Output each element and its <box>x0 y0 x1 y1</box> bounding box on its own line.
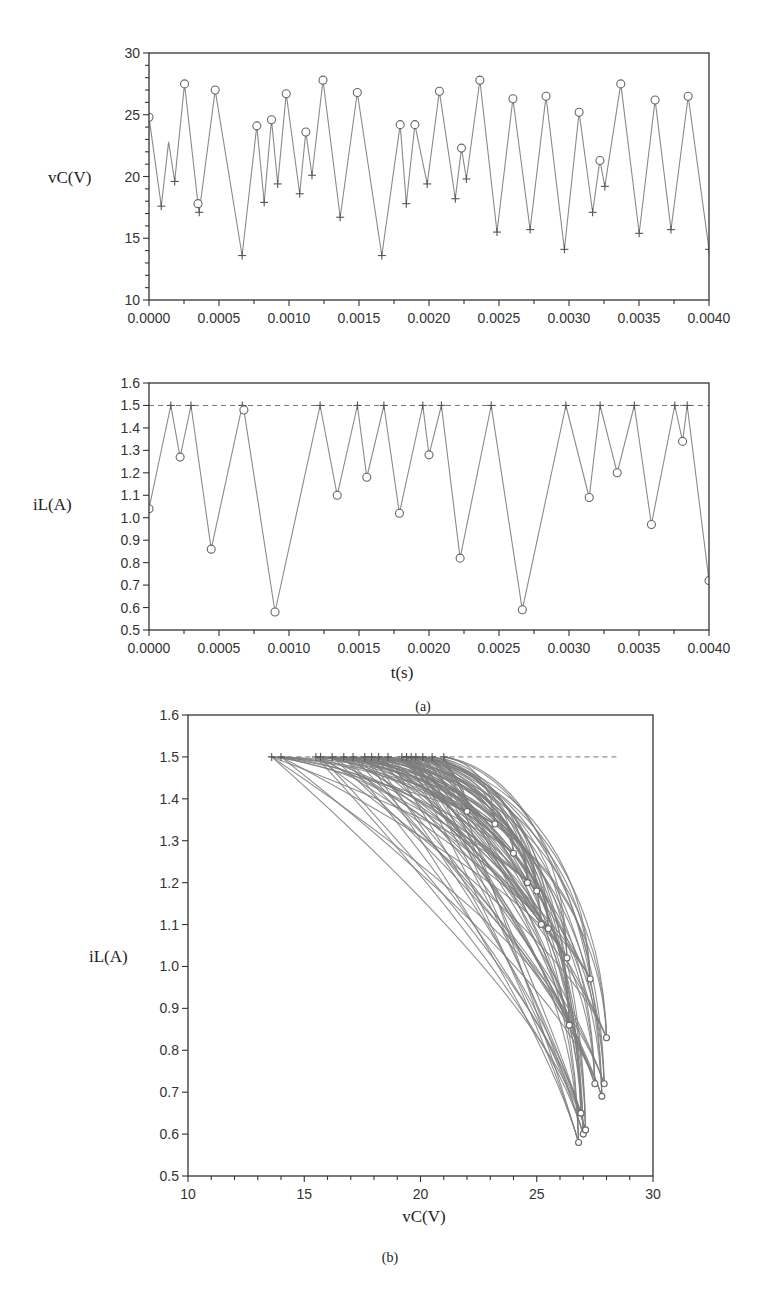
x-tick-label: 0.0040 <box>688 310 731 326</box>
circle-marker <box>319 76 327 84</box>
circle-marker <box>425 451 433 459</box>
circle-marker <box>647 520 655 528</box>
circle-marker <box>333 491 341 499</box>
x-tick-label: 30 <box>645 1186 661 1202</box>
waveform-line <box>149 80 709 255</box>
circle-marker <box>601 1081 607 1087</box>
circle-marker <box>363 473 371 481</box>
y-tick-label: 0.7 <box>160 1084 180 1100</box>
circle-marker <box>194 200 202 208</box>
circle-marker <box>476 76 484 84</box>
x-tick-label: 15 <box>296 1186 312 1202</box>
circle-marker <box>268 116 276 124</box>
circle-marker <box>456 554 464 562</box>
circle-marker <box>679 437 687 445</box>
y-tick-label: 25 <box>124 107 140 123</box>
circle-marker <box>534 888 540 894</box>
y-tick-label: 0.5 <box>121 622 141 638</box>
circle-marker <box>617 80 625 88</box>
circle-marker <box>492 821 498 827</box>
x-tick-label: 0.0025 <box>478 640 521 656</box>
circle-marker <box>684 92 692 100</box>
circle-marker <box>604 1035 610 1041</box>
y-tick-label: 0.5 <box>160 1168 180 1184</box>
y-tick-label: 0.8 <box>121 555 141 571</box>
x-tick-label: 0.0025 <box>478 310 521 326</box>
vc-time-chart: 0.00000.00050.00100.00150.00200.00250.00… <box>48 45 731 326</box>
circle-marker <box>583 1127 589 1133</box>
vc-trace <box>145 76 713 259</box>
circle-marker <box>575 108 583 116</box>
trajectory-arc <box>281 757 581 1113</box>
circle-marker <box>457 144 465 152</box>
y-tick-label: 1.3 <box>121 442 141 458</box>
circle-marker <box>587 976 593 982</box>
phase-x-axis-title: vC(V) <box>402 1207 445 1226</box>
circle-marker <box>596 156 604 164</box>
y-tick-label: 0.9 <box>121 532 141 548</box>
y-tick-label: 30 <box>124 45 140 61</box>
circle-marker <box>211 86 219 94</box>
il-x-axis-title: t(s) <box>391 663 414 682</box>
circle-marker <box>542 92 550 100</box>
x-tick-label: 0.0005 <box>198 310 241 326</box>
circle-marker <box>271 608 279 616</box>
y-tick-label: 1.4 <box>160 791 180 807</box>
y-tick-label: 1.2 <box>121 465 141 481</box>
y-tick-label: 0.8 <box>160 1042 180 1058</box>
y-tick-label: 0.6 <box>160 1126 180 1142</box>
circle-marker <box>651 96 659 104</box>
circle-marker <box>302 128 310 136</box>
y-tick-label: 0.6 <box>121 600 141 616</box>
circle-marker <box>396 121 404 129</box>
y-tick-label: 0.7 <box>121 577 141 593</box>
circle-marker <box>353 89 361 97</box>
y-tick-label: 20 <box>124 169 140 185</box>
panel-a-caption: (a) <box>415 699 431 715</box>
circle-marker <box>599 1093 605 1099</box>
y-tick-label: 1.3 <box>160 833 180 849</box>
phase-portrait-chart: 10152025300.50.60.70.80.91.01.11.21.31.4… <box>89 707 661 1226</box>
circle-marker <box>464 808 470 814</box>
x-tick-label: 0.0015 <box>338 640 381 656</box>
circle-marker <box>207 545 215 553</box>
x-tick-label: 10 <box>180 1186 196 1202</box>
circle-marker <box>240 406 248 414</box>
y-tick-label: 1.5 <box>160 749 180 765</box>
il-trace <box>145 401 713 616</box>
x-tick-label: 0.0020 <box>408 640 451 656</box>
phase-trajectories <box>268 753 618 1146</box>
x-tick-label: 0.0010 <box>268 640 311 656</box>
circle-marker <box>509 95 517 103</box>
x-tick-label: 0.0015 <box>338 310 381 326</box>
circle-marker <box>585 494 593 502</box>
trajectory-return <box>321 757 581 1113</box>
y-tick-label: 10 <box>124 292 140 308</box>
x-tick-label: 25 <box>529 1186 545 1202</box>
x-tick-label: 0.0000 <box>128 640 171 656</box>
y-tick-label: 1.5 <box>121 397 141 413</box>
circle-marker <box>181 80 189 88</box>
y-tick-label: 1.1 <box>121 487 141 503</box>
waveform-line <box>149 406 709 613</box>
il-time-chart: 0.00000.00050.00100.00150.00200.00250.00… <box>33 375 731 682</box>
y-tick-label: 1.0 <box>121 510 141 526</box>
il-y-axis-title: iL(A) <box>33 495 72 514</box>
x-tick-label: 0.0000 <box>128 310 171 326</box>
x-tick-label: 0.0035 <box>618 640 661 656</box>
x-tick-label: 0.0030 <box>548 310 591 326</box>
x-tick-label: 0.0030 <box>548 640 591 656</box>
circle-marker <box>411 121 419 129</box>
circle-marker <box>538 922 544 928</box>
circle-marker <box>253 122 261 130</box>
circle-marker <box>613 469 621 477</box>
circle-marker <box>578 1110 584 1116</box>
circle-marker <box>435 87 443 95</box>
x-tick-label: 20 <box>413 1186 429 1202</box>
x-tick-label: 0.0005 <box>198 640 241 656</box>
circle-marker <box>511 850 517 856</box>
il-axes: 0.00000.00050.00100.00150.00200.00250.00… <box>121 375 731 656</box>
plot-frame <box>149 383 709 630</box>
y-tick-label: 1.4 <box>121 420 141 436</box>
circle-marker <box>592 1081 598 1087</box>
